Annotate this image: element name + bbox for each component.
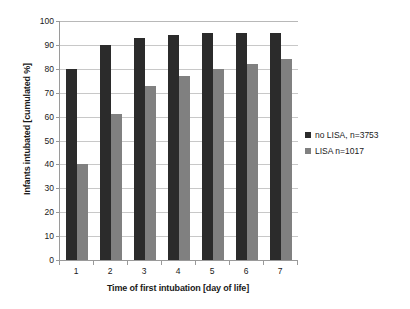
bar[interactable] xyxy=(111,114,122,260)
bar[interactable] xyxy=(281,59,292,260)
x-axis-tickmark xyxy=(127,261,128,265)
x-axis-tick-label: 6 xyxy=(229,266,263,276)
bar-group xyxy=(162,21,196,260)
y-axis-tick-label: 30 xyxy=(28,184,54,193)
x-axis-tick-label: 3 xyxy=(127,266,161,276)
bar[interactable] xyxy=(100,45,111,260)
y-axis-tick-label: 100 xyxy=(28,17,54,26)
bar[interactable] xyxy=(77,164,88,260)
y-axis-tick-label: 10 xyxy=(28,232,54,241)
x-axis-tickmarks xyxy=(59,261,297,265)
bar[interactable] xyxy=(270,33,281,260)
bar[interactable] xyxy=(145,86,156,260)
x-axis-tick-label: 5 xyxy=(195,266,229,276)
x-axis-title: Time of first intubation [day of life] xyxy=(59,283,297,293)
x-axis-tick-label: 7 xyxy=(263,266,297,276)
bar-chart: Infants intubated [cumulated %] 01020304… xyxy=(0,0,410,309)
bar[interactable] xyxy=(66,69,77,260)
legend-label: LISA n=1017 xyxy=(315,147,364,156)
x-axis-tick-label: 4 xyxy=(161,266,195,276)
x-axis-tickmark xyxy=(93,261,94,265)
legend: no LISA, n=3753LISA n=1017 xyxy=(305,127,379,159)
bar[interactable] xyxy=(179,76,190,260)
y-axis-tick-label: 80 xyxy=(28,65,54,74)
x-axis-tickmark xyxy=(229,261,230,265)
bar-group xyxy=(264,21,298,260)
y-axis-tick-label: 70 xyxy=(28,88,54,97)
bars-layer xyxy=(60,21,298,260)
bar[interactable] xyxy=(236,33,247,260)
x-axis-tickmark xyxy=(59,261,60,265)
x-axis-tick-label: 1 xyxy=(59,266,93,276)
y-axis-tick-labels: 0102030405060708090100 xyxy=(28,21,54,260)
plot-area xyxy=(59,21,298,261)
x-axis-tickmark xyxy=(161,261,162,265)
bar[interactable] xyxy=(168,35,179,260)
y-axis-tick-label: 20 xyxy=(28,208,54,217)
bar-group xyxy=(128,21,162,260)
bar[interactable] xyxy=(247,64,258,260)
x-axis-tick-label: 2 xyxy=(93,266,127,276)
legend-label: no LISA, n=3753 xyxy=(315,131,379,140)
bar-group xyxy=(230,21,264,260)
y-axis-tick-label: 0 xyxy=(28,256,54,265)
bar[interactable] xyxy=(202,33,213,260)
bar-group xyxy=(60,21,94,260)
x-axis-tickmark xyxy=(297,261,298,265)
legend-swatch-icon xyxy=(305,148,311,154)
bar-group xyxy=(94,21,128,260)
bar[interactable] xyxy=(213,69,224,260)
y-axis-tick-label: 90 xyxy=(28,41,54,50)
x-axis-tick-labels: 1234567 xyxy=(59,266,297,276)
bar[interactable] xyxy=(134,38,145,260)
x-axis-tickmark xyxy=(263,261,264,265)
legend-item[interactable]: no LISA, n=3753 xyxy=(305,127,379,143)
y-axis-tick-label: 60 xyxy=(28,112,54,121)
bar-group xyxy=(196,21,230,260)
y-axis-tick-label: 40 xyxy=(28,160,54,169)
x-axis-tickmark xyxy=(195,261,196,265)
legend-item[interactable]: LISA n=1017 xyxy=(305,143,379,159)
legend-swatch-icon xyxy=(305,132,311,138)
y-axis-tick-label: 50 xyxy=(28,136,54,145)
